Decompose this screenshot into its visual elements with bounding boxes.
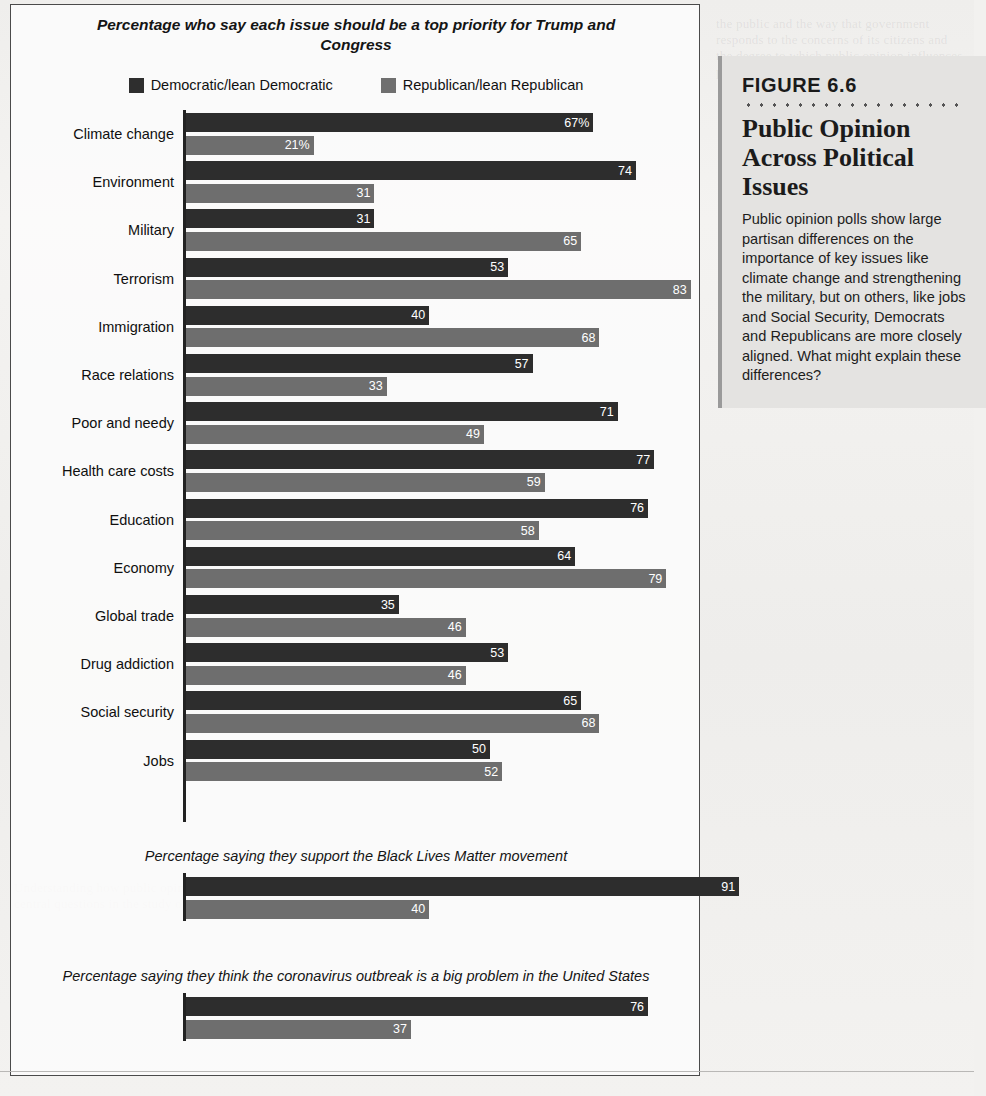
bar-democratic: 31	[186, 209, 374, 228]
bar-value-label: 76	[630, 1000, 644, 1013]
bar-democratic: 71	[186, 402, 618, 421]
bar-republican: 31	[186, 184, 374, 203]
bar-value-label: 58	[521, 524, 535, 537]
bar-value-label: 21%	[285, 139, 310, 152]
covid-plot: 7637	[11, 993, 701, 1043]
legend-swatch-democratic-icon	[129, 78, 144, 93]
bar-republican: 68	[186, 328, 599, 347]
bar-value-label: 74	[618, 164, 632, 177]
bar-value-label: 83	[673, 283, 687, 296]
bar-value-label: 79	[648, 573, 662, 586]
blm-chart-title: Percentage saying they support the Black…	[46, 847, 666, 866]
bar-democratic: 50	[186, 740, 490, 759]
bar-democratic: 77	[186, 450, 654, 469]
bar-value-label: 53	[490, 646, 504, 659]
legend-swatch-republican-icon	[381, 78, 396, 93]
bar-value-label: 50	[472, 743, 486, 756]
bar-democratic: 64	[186, 547, 575, 566]
bar-republican: 79	[186, 569, 666, 588]
category-label: Global trade	[11, 608, 174, 624]
bar-republican: 46	[186, 666, 466, 685]
category-label: Health care costs	[11, 463, 174, 479]
bar-republican: 37	[186, 1020, 411, 1039]
bar-row: Poor and needy7149	[11, 399, 701, 447]
category-label: Economy	[11, 560, 174, 576]
bar-group: 7759	[186, 447, 654, 492]
bar-value-label: 77	[636, 454, 650, 467]
bar-row: Race relations5733	[11, 351, 701, 399]
bar-value-label: 37	[393, 1023, 407, 1036]
main-bar-chart: Climate change67%21%Environment7431Milit…	[11, 108, 701, 831]
bar-group: 5346	[186, 640, 508, 685]
covid-bars: 7637	[186, 994, 648, 1039]
bar-value-label: 46	[448, 621, 462, 634]
bar-value-label: 57	[515, 357, 529, 370]
bar-democratic: 40	[186, 306, 429, 325]
bar-democratic: 53	[186, 258, 508, 277]
category-label: Terrorism	[11, 271, 174, 287]
bar-value-label: 46	[448, 669, 462, 682]
bar-row: Global trade3546	[11, 592, 701, 640]
bar-row: Terrorism5383	[11, 255, 701, 303]
bar-value-label: 91	[721, 880, 735, 893]
bar-group: 7658	[186, 496, 648, 541]
bar-value-label: 33	[369, 380, 383, 393]
covid-chart-title: Percentage saying they think the coronav…	[46, 967, 666, 986]
category-label: Drug addiction	[11, 656, 174, 672]
bar-republican: 52	[186, 762, 502, 781]
figure-number: FIGURE 6.6	[742, 74, 968, 97]
bar-group: 3546	[186, 592, 466, 637]
bar-group: 3165	[186, 206, 581, 251]
bar-republican: 49	[186, 425, 484, 444]
bar-value-label: 76	[630, 502, 644, 515]
category-label: Jobs	[11, 753, 174, 769]
category-label: Social security	[11, 704, 174, 720]
bar-row: Economy6479	[11, 544, 701, 592]
bar-democratic: 57	[186, 354, 533, 373]
bar-democratic: 76	[186, 499, 648, 518]
figure-description: Public opinion polls show large partisan…	[742, 210, 968, 386]
bar-democratic: 67%	[186, 113, 593, 132]
bar-group: 6568	[186, 688, 599, 733]
bar-value-label: 52	[484, 765, 498, 778]
bar-group: 6479	[186, 544, 666, 589]
figure-caption-box: FIGURE 6.6 Public Opinion Across Politic…	[718, 56, 986, 408]
bar-democratic: 91	[186, 877, 739, 896]
category-label: Climate change	[11, 126, 174, 142]
bar-value-label: 40	[411, 903, 425, 916]
category-label: Poor and needy	[11, 415, 174, 431]
covid-sub-chart: Percentage saying they think the coronav…	[11, 967, 701, 1043]
bar-row: Climate change67%21%	[11, 110, 701, 158]
legend-label-republican: Republican/lean Republican	[403, 77, 584, 93]
chart-legend: Democratic/lean Democratic Republican/le…	[11, 77, 701, 93]
bar-row: Drug addiction5346	[11, 640, 701, 688]
category-label: Race relations	[11, 367, 174, 383]
bar-value-label: 31	[357, 187, 371, 200]
bar-republican: 83	[186, 280, 691, 299]
bar-value-label: 68	[582, 332, 596, 345]
bar-value-label: 40	[411, 309, 425, 322]
bar-group: 7431	[186, 158, 636, 203]
bar-republican: 58	[186, 521, 539, 540]
bar-democratic: 76	[186, 997, 648, 1016]
bar-row: Military3165	[11, 206, 701, 254]
bar-republican: 21%	[186, 136, 314, 155]
bar-row: Jobs5052	[11, 737, 701, 785]
main-chart-title: Percentage who say each issue should be …	[71, 15, 641, 55]
bar-democratic: 74	[186, 161, 636, 180]
figure-frame: Percentage who say each issue should be …	[10, 4, 700, 1076]
legend-item-democratic: Democratic/lean Democratic	[129, 77, 333, 93]
bar-republican: 65	[186, 232, 581, 251]
category-label: Education	[11, 512, 174, 528]
bar-value-label: 35	[381, 598, 395, 611]
bar-value-label: 68	[582, 717, 596, 730]
bar-value-label: 31	[357, 213, 371, 226]
bar-value-label: 49	[466, 428, 480, 441]
category-label: Military	[11, 222, 174, 238]
category-label: Immigration	[11, 319, 174, 335]
bar-democratic: 35	[186, 595, 399, 614]
bar-republican: 40	[186, 900, 429, 919]
bar-group: 7149	[186, 399, 618, 444]
bar-value-label: 67%	[564, 116, 589, 129]
bar-row: Health care costs7759	[11, 447, 701, 495]
